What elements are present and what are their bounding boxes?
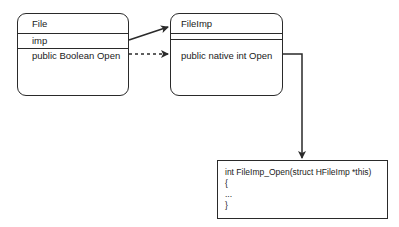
connectors: [0, 0, 399, 227]
association-arrow: [129, 27, 168, 40]
implementation-arrow: [283, 54, 302, 158]
